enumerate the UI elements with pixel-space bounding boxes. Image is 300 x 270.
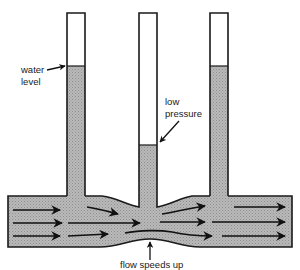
water-level-lines (67, 66, 228, 145)
water-fill (8, 66, 292, 247)
flow-speeds-up-label: flow speeds up (120, 259, 183, 270)
water-level-pointer-arrow (47, 66, 65, 70)
water-level-label-line1: water (20, 64, 44, 75)
low-pressure-pointer-arrow (160, 121, 179, 142)
low-pressure-label-line1: low (165, 96, 179, 107)
water-level-label-line2: level (21, 76, 41, 87)
venturi-diagram: water level low pressure flow speeds up (0, 0, 300, 270)
low-pressure-label-line2: pressure (165, 108, 202, 119)
